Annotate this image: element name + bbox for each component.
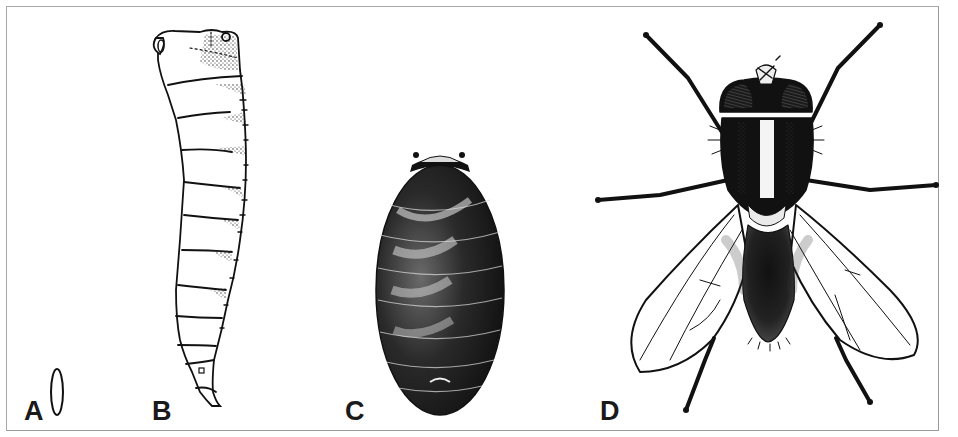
figure-canvas xyxy=(0,0,958,437)
panel-label-c: C xyxy=(345,398,365,425)
egg-illustration xyxy=(51,369,63,415)
pupa-illustration xyxy=(376,152,504,415)
larva-illustration xyxy=(154,30,248,406)
adult-fly-illustration xyxy=(595,22,939,413)
panel-label-b: B xyxy=(152,398,172,425)
panel-label-a: A xyxy=(24,398,44,425)
panel-label-d: D xyxy=(600,398,620,425)
